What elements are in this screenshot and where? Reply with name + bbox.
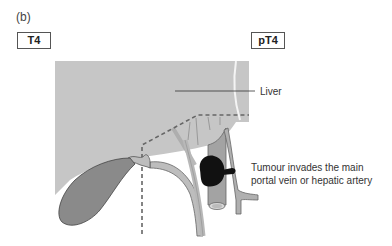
tumour-annotation-line2: portal vein or hepatic artery [251,175,391,188]
tumour-annotation: Tumour invades the main portal vein or h… [251,162,391,187]
tumour-mass [200,156,225,187]
portal-vein-lumen [212,204,222,208]
anatomy-diagram [0,0,392,246]
liver-label: Liver [260,86,282,99]
tumour-annotation-line1: Tumour invades the main [251,162,391,175]
